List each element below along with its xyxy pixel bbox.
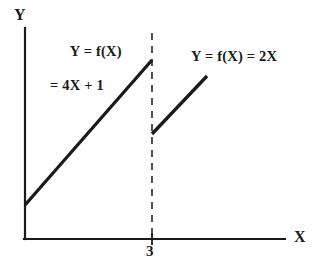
branch1-annotation-line1: Y = f(X)	[70, 43, 122, 59]
x-tick-label-3: 3	[146, 243, 154, 261]
branch2-line-2x	[152, 76, 207, 134]
x-axis-label: X	[294, 228, 306, 247]
branch1-annotation-line2: = 4X + 1	[50, 77, 122, 94]
branch1-annotation: Y = f(X) = 4X + 1	[55, 26, 122, 129]
branch2-annotation: Y = f(X) = 2X	[191, 48, 277, 65]
plot-canvas	[0, 0, 321, 273]
y-axis-label: Y	[14, 6, 26, 25]
function-graph-figure: Y X 3 Y = f(X) = 4X + 1 Y = f(X) = 2X	[0, 0, 321, 273]
